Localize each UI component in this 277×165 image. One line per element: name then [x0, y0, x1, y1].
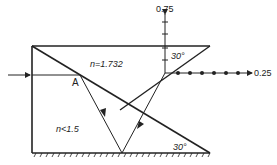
angle-bottom-label: 30° — [173, 142, 187, 152]
angle-top-label: 30° — [171, 51, 185, 61]
axis-label-vertical: 0.75 — [156, 4, 174, 14]
axis-label-horizontal: 0.25 — [254, 68, 272, 78]
upper-medium-label: n=1.732 — [90, 59, 123, 69]
arrow-down-icon — [100, 108, 106, 117]
prism-diagram: 0.75 0.25 n=1.732 n<1.5 A 30° 30° — [0, 0, 277, 165]
reflected-ray — [122, 73, 165, 153]
lower-medium-label: n<1.5 — [56, 124, 80, 134]
point-a-label: A — [72, 77, 79, 88]
